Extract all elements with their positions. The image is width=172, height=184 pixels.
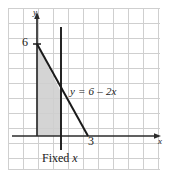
x-intercept-label: 3 [88, 135, 94, 147]
equation-label: y = 6 – 2x [70, 86, 117, 97]
y-intercept-label: 6 [22, 36, 28, 48]
fixed-x-caption-variable: x [72, 151, 77, 165]
fixed-x-caption: Fixed x [42, 152, 78, 164]
x-axis-label: x [158, 137, 162, 146]
fixed-x-caption-prefix: Fixed [42, 151, 72, 165]
graph-figure: y x 6 3 y = 6 – 2x Fixed x [0, 0, 172, 184]
y-axis-label: y [33, 8, 37, 17]
